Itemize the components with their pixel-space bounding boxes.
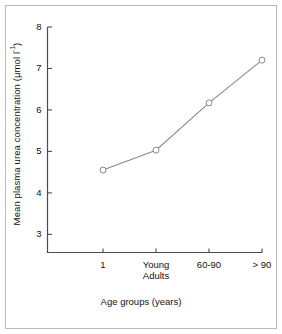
y-axis-tick-label: 6 xyxy=(22,104,42,115)
y-axis-title-text: Mean plasma urea concentration (μmol l xyxy=(11,52,22,226)
x-axis-tick-label-line: > 90 xyxy=(253,259,272,270)
data-point-markers xyxy=(100,57,265,173)
y-axis-title-suffix: ) xyxy=(11,43,22,46)
y-axis-ticks xyxy=(48,27,53,234)
x-axis-title: Age groups (years) xyxy=(0,297,282,307)
y-axis-tick-label: 7 xyxy=(22,62,42,73)
x-axis-tick-label-line: 60-90 xyxy=(197,259,221,270)
y-axis-title-wrapper: Mean plasma urea concentration (μmol l-1… xyxy=(8,18,24,250)
plot-area xyxy=(0,0,282,334)
x-axis-tick-label-line: Young xyxy=(143,259,170,270)
y-axis-title-superscript: -1 xyxy=(9,46,16,52)
x-axis-tick-label-line: 1 xyxy=(100,259,105,270)
data-point-marker xyxy=(206,100,212,106)
data-line xyxy=(103,60,262,170)
x-axis-tick-label-line: Adults xyxy=(143,270,170,281)
x-axis-tick-label: > 90 xyxy=(253,259,272,270)
y-axis-tick-label: 5 xyxy=(22,145,42,156)
y-axis-tick-label: 8 xyxy=(22,21,42,32)
data-point-marker xyxy=(259,57,265,63)
y-axis-tick-label: 4 xyxy=(22,187,42,198)
data-point-marker xyxy=(100,167,106,173)
x-axis-tick-label: 1 xyxy=(100,259,105,270)
y-axis-tick-label: 3 xyxy=(22,228,42,239)
x-axis-tick-label: YoungAdults xyxy=(143,259,170,281)
x-axis-tick-label: 60-90 xyxy=(197,259,221,270)
y-axis-title: Mean plasma urea concentration (μmol l-1… xyxy=(11,43,22,226)
data-point-marker xyxy=(153,147,159,153)
figure-container: 345678 1YoungAdults60-90> 90 Mean plasma… xyxy=(0,0,282,334)
